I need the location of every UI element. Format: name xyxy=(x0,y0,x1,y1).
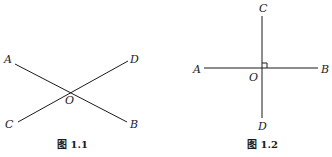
label-c: C xyxy=(5,118,14,131)
figure-1-1: A D O C B 图 1.1 xyxy=(3,53,139,150)
diagram-canvas: A D O C B 图 1.1 C A B O D 图 1.2 xyxy=(0,0,332,157)
label-a: A xyxy=(192,63,201,76)
label-a: A xyxy=(3,53,12,66)
label-o: O xyxy=(65,94,74,107)
caption-fig-1-1: 图 1.1 xyxy=(57,139,88,150)
label-c: C xyxy=(259,2,268,15)
label-b: B xyxy=(129,118,138,131)
figure-1-2: C A B O D 图 1.2 xyxy=(192,2,329,150)
right-angle-marker xyxy=(262,63,267,68)
label-d: D xyxy=(257,120,267,133)
label-b: B xyxy=(320,63,329,76)
label-o: O xyxy=(249,71,258,84)
label-d: D xyxy=(129,53,139,66)
caption-fig-1-2: 图 1.2 xyxy=(247,139,278,150)
line-cd xyxy=(18,61,128,122)
